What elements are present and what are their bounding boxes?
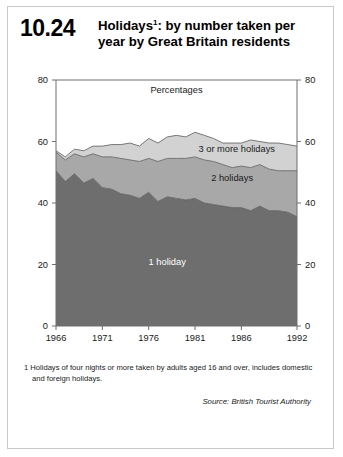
figure-title: Holidays1: by number taken per year by G… [98,18,295,49]
y-tick-label-left: 60 [38,137,48,147]
chart-unit-label: Percentages [150,85,203,95]
y-tick-label-left: 0 [43,322,48,332]
figure-header: 10.24 Holidays1: by number taken per yea… [8,7,333,49]
figure-title-line1-rest: : by number taken per [157,18,295,33]
y-tick-label-right: 0 [305,322,310,332]
y-tick-label-right: 40 [305,199,315,209]
figure-number: 10.24 [20,17,98,40]
figure-title-line1-main: Holidays [98,18,153,33]
y-tick-label-right: 20 [305,260,315,270]
x-tick-label: 1976 [138,333,159,343]
x-tick-label: 1981 [185,333,206,343]
figure-title-line2: year by Great Britain residents [98,34,290,49]
x-tick-label: 1966 [46,333,67,343]
y-tick-label-left: 80 [38,76,48,86]
figure-panel: 10.24 Holidays1: by number taken per yea… [7,6,334,449]
series-label-1-holiday: 1 holiday [149,257,187,267]
y-tick-label-right: 80 [305,76,315,86]
x-tick-label: 1986 [231,333,252,343]
chart-series-areas [56,133,297,327]
y-tick-label-left: 40 [38,199,48,209]
figure-notes: 1 Holidays of four nights or more taken … [8,358,333,406]
chart-plot-area: 0020204040606080801966197119761981198619… [8,58,333,358]
series-label-2-holidays: 2 holidays [211,174,253,184]
x-tick-label: 1992 [287,333,308,343]
stacked-area-chart: 0020204040606080801966197119761981198619… [8,58,333,358]
y-tick-label-left: 20 [38,260,48,270]
series-label-3-or-more-holidays: 3 or more holidays [199,145,276,155]
figure-footnote: 1 Holidays of four nights or more taken … [24,362,319,384]
y-tick-label-right: 60 [305,137,315,147]
figure-source: Source: British Tourist Authority [24,397,319,406]
x-tick-label: 1971 [92,333,113,343]
